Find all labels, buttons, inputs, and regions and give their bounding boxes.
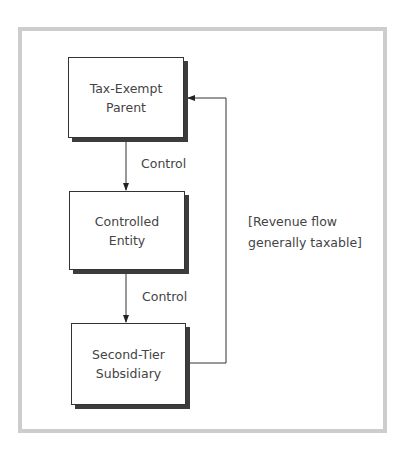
node-second-tier-subsidiary: Second-Tier Subsidiary [71, 323, 186, 405]
revenue-label-line: [Revenue flow [248, 211, 362, 232]
node-label-line: Controlled [95, 212, 159, 231]
node-controlled-entity: Controlled Entity [69, 191, 185, 270]
node-label-line: Entity [95, 231, 159, 250]
edge-label-control-2: Control [142, 289, 187, 304]
node-label-line: Parent [90, 98, 163, 117]
node-label-line: Subsidiary [92, 364, 165, 383]
node-label-line: Second-Tier [92, 345, 165, 364]
node-label-line: Tax-Exempt [90, 79, 163, 98]
revenue-flow-arrow [186, 98, 226, 363]
node-tax-exempt-parent: Tax-Exempt Parent [68, 57, 184, 138]
edge-label-control-1: Control [141, 156, 186, 171]
edge-label-revenue-flow: [Revenue flow generally taxable] [248, 211, 362, 253]
revenue-label-line: generally taxable] [248, 232, 362, 253]
